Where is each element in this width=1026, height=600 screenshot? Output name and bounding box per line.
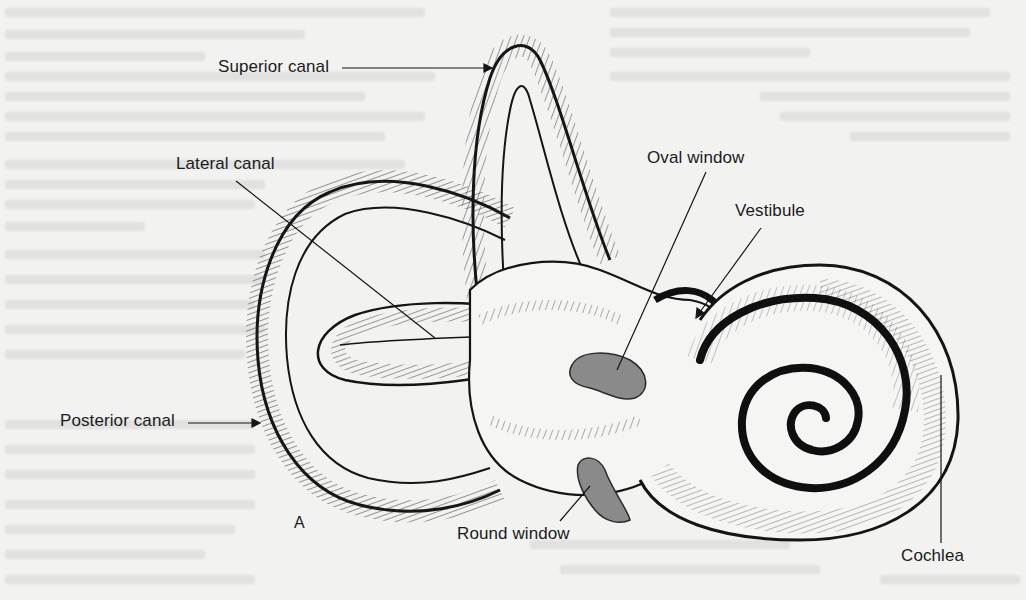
diagram-page: Superior canal Lateral canal Posterior c… (0, 0, 1026, 600)
label-superior-canal: Superior canal (218, 57, 329, 77)
label-round-window: Round window (457, 524, 570, 544)
inner-ear-illustration (0, 0, 1026, 600)
label-oval-window: Oval window (647, 148, 744, 168)
label-cochlea: Cochlea (901, 546, 964, 566)
panel-label: A (294, 514, 305, 532)
label-posterior-canal: Posterior canal (60, 411, 175, 431)
arrowhead-icon (252, 419, 260, 427)
label-lateral-canal: Lateral canal (176, 154, 275, 174)
label-vestibule: Vestibule (735, 201, 805, 221)
